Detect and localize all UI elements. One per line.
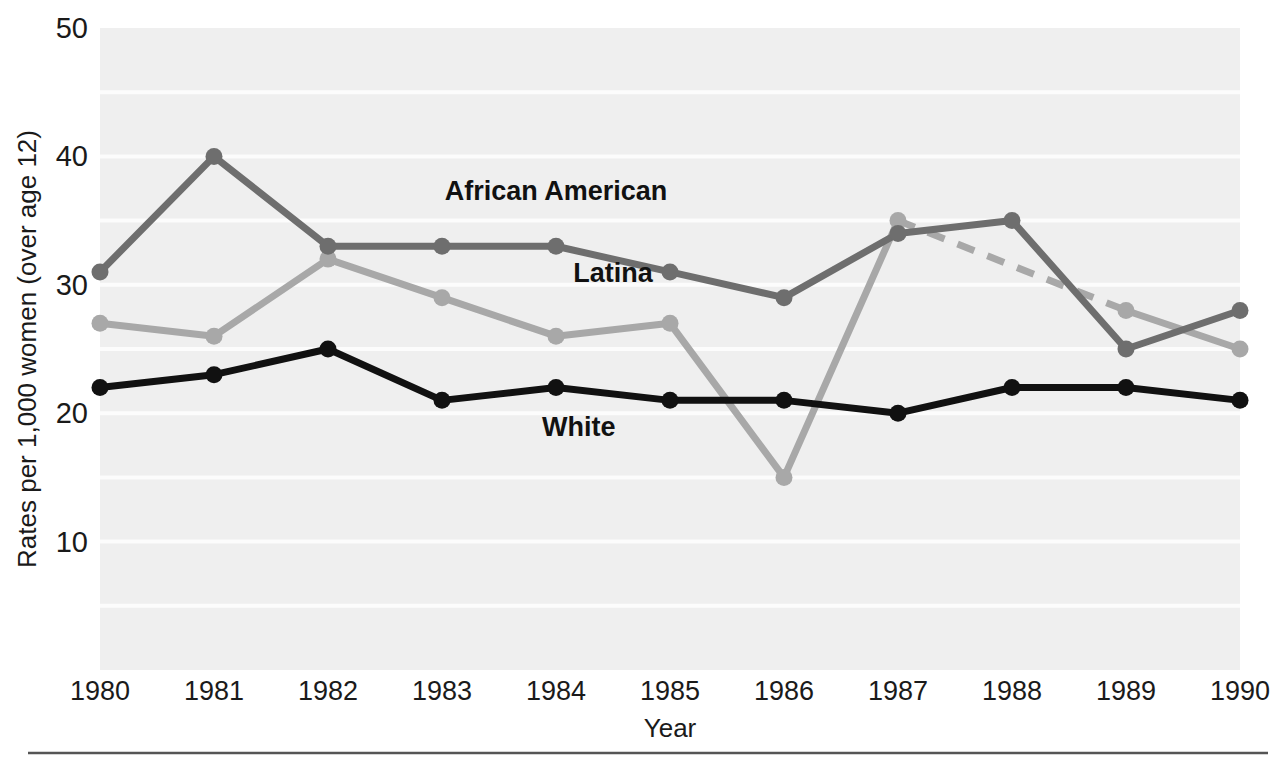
x-tick-1985: 1985 xyxy=(640,676,700,706)
x-tick-1982: 1982 xyxy=(298,676,358,706)
x-tick-1986: 1986 xyxy=(754,676,814,706)
data-point xyxy=(1118,341,1135,358)
data-point xyxy=(662,315,679,332)
y-tick-20: 20 xyxy=(56,397,88,429)
y-axis-title: Rates per 1,000 women (over age 12) xyxy=(12,130,42,568)
x-tick-1981: 1981 xyxy=(184,676,244,706)
data-point xyxy=(206,148,223,165)
y-tick-40: 40 xyxy=(56,140,88,172)
annotation-white: White xyxy=(542,412,616,442)
data-point xyxy=(434,289,451,306)
data-point xyxy=(662,263,679,280)
annotation-latina: Latina xyxy=(573,258,653,288)
data-point xyxy=(1004,212,1021,229)
data-point xyxy=(1232,392,1249,409)
data-point xyxy=(434,238,451,255)
x-tick-1984: 1984 xyxy=(526,676,586,706)
y-tick-50: 50 xyxy=(56,12,88,44)
x-axis-title: Year xyxy=(644,713,697,743)
data-point xyxy=(890,405,907,422)
data-point xyxy=(1118,379,1135,396)
x-tick-1983: 1983 xyxy=(412,676,472,706)
x-axis-tick-labels: 1980198119821983198419851986198719881989… xyxy=(70,676,1270,706)
data-point xyxy=(548,238,565,255)
data-point xyxy=(434,392,451,409)
data-point xyxy=(206,366,223,383)
data-point xyxy=(92,263,109,280)
data-point xyxy=(320,238,337,255)
data-point xyxy=(92,315,109,332)
data-point xyxy=(1232,302,1249,319)
data-point xyxy=(776,469,793,486)
x-tick-1989: 1989 xyxy=(1096,676,1156,706)
data-point xyxy=(206,328,223,345)
x-tick-1990: 1990 xyxy=(1210,676,1270,706)
data-point xyxy=(662,392,679,409)
line-chart: 5040302010 19801981198219831984198519861… xyxy=(0,0,1282,768)
chart-figure: 5040302010 19801981198219831984198519861… xyxy=(0,0,1282,768)
x-tick-1987: 1987 xyxy=(868,676,928,706)
data-point xyxy=(890,225,907,242)
y-tick-10: 10 xyxy=(56,526,88,558)
data-point xyxy=(320,341,337,358)
data-point xyxy=(92,379,109,396)
data-point xyxy=(1232,341,1249,358)
data-point xyxy=(548,328,565,345)
x-tick-1988: 1988 xyxy=(982,676,1042,706)
data-point xyxy=(776,289,793,306)
data-point xyxy=(548,379,565,396)
data-point xyxy=(1118,302,1135,319)
annotation-african-american: African American xyxy=(445,176,668,206)
data-point xyxy=(1004,379,1021,396)
data-point xyxy=(776,392,793,409)
y-tick-30: 30 xyxy=(56,269,88,301)
x-tick-1980: 1980 xyxy=(70,676,130,706)
y-axis-tick-labels: 5040302010 xyxy=(56,12,88,558)
